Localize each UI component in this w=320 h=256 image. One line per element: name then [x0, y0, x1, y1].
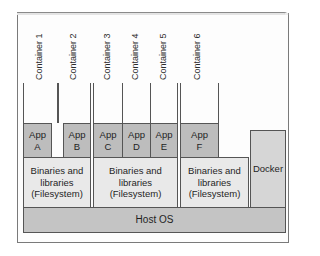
container-1-left-line — [23, 83, 24, 123]
app-e-box: App E — [150, 123, 178, 158]
container-2-left-line — [58, 83, 59, 123]
binaries-libraries-box-3: Binaries and libraries (Filesystem) — [180, 157, 249, 208]
container-4-right-line — [150, 83, 151, 123]
container-4-label: Container 4 — [130, 33, 140, 80]
container-6-right-line — [218, 83, 219, 123]
host-os-box: Host OS — [23, 207, 286, 233]
container-1-label: Container 1 — [34, 33, 44, 80]
app-d-box: App D — [122, 123, 151, 158]
container-5-label: Container 5 — [158, 33, 168, 80]
binaries-libraries-box-1: Binaries and libraries (Filesystem) — [23, 157, 91, 208]
docker-engine-box: Docker — [250, 130, 286, 208]
container-3-right-line — [122, 83, 123, 123]
container-3-label: Container 3 — [102, 33, 112, 80]
app-b-box: App B — [63, 123, 91, 158]
app-a-box: App A — [23, 123, 52, 158]
container-2-label: Container 2 — [68, 33, 78, 80]
binaries-libraries-box-2: Binaries and libraries (Filesystem) — [93, 157, 178, 208]
container-6-label: Container 6 — [192, 33, 202, 80]
app-f-box: App F — [180, 123, 219, 158]
app-c-box: App C — [93, 123, 123, 158]
